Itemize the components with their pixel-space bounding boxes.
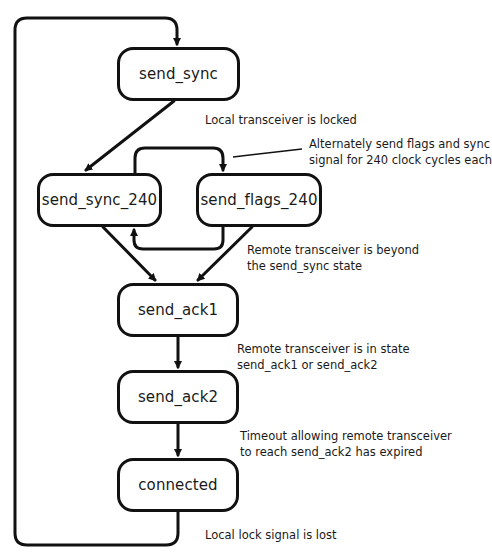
state-label: send_sync: [139, 65, 218, 83]
condition-locked: Local transceiver is locked: [205, 112, 357, 128]
condition-in-state-line2: send_ack1 or send_ack2: [237, 357, 378, 373]
state-send-sync: send_sync: [117, 47, 240, 101]
state-label: connected: [138, 476, 217, 494]
state-label: send_sync_240: [42, 191, 157, 209]
condition-in-state-line1: Remote transceiver is in state: [237, 341, 410, 357]
state-send-ack1: send_ack1: [117, 283, 239, 337]
state-connected: connected: [117, 458, 239, 512]
condition-beyond-line1: Remote transceiver is beyond: [247, 242, 419, 258]
state-send-ack2: send_ack2: [117, 370, 239, 424]
state-label: send_ack1: [138, 301, 218, 319]
callout-alternate-line1: Alternately send flags and sync: [309, 136, 490, 152]
arrow-flags240-to-sync240: [134, 227, 223, 249]
condition-beyond-line2: the send_sync state: [247, 258, 362, 274]
callout-alternate-line2: signal for 240 clock cycles each: [309, 152, 492, 168]
state-label: send_ack2: [138, 388, 218, 406]
state-label: send_flags_240: [200, 191, 317, 209]
arrow-send-sync-to-send-sync-240: [86, 101, 174, 170]
arrow-sync240-to-ack1: [103, 227, 155, 280]
callout-leader: [233, 149, 302, 157]
state-send-flags-240: send_flags_240: [196, 173, 322, 227]
state-send-sync-240: send_sync_240: [37, 173, 162, 227]
arrow-sync240-to-flags240: [135, 148, 223, 173]
condition-timeout-line1: Timeout allowing remote transceiver: [240, 428, 452, 444]
condition-lock-lost: Local lock signal is lost: [205, 527, 337, 543]
arrow-flags240-to-ack1: [198, 227, 252, 280]
condition-timeout-line2: to reach send_ack2 has expired: [240, 444, 422, 460]
